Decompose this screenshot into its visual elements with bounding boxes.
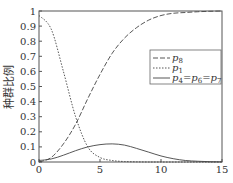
y-tick-label: 0.4 xyxy=(20,96,36,107)
legend: p8p1p4=p6=p7 xyxy=(150,50,221,85)
chart: 00.10.20.30.40.50.60.70.80.91051015种群比例 … xyxy=(0,0,233,183)
axes: 00.10.20.30.40.50.60.70.80.91051015种群比例 xyxy=(2,6,228,176)
y-tick-label: 0.8 xyxy=(20,36,36,47)
x-tick-label: 10 xyxy=(155,164,168,175)
y-tick-label: 1 xyxy=(30,6,36,17)
plot-lines xyxy=(39,11,222,162)
x-tick-label: 5 xyxy=(97,164,103,175)
y-tick-label: 0.1 xyxy=(20,141,36,152)
x-tick-label: 15 xyxy=(216,164,229,175)
x-tick-label: 0 xyxy=(36,164,42,175)
y-axis-label: 种群比例 xyxy=(2,65,16,109)
y-tick-label: 0.9 xyxy=(20,21,36,32)
y-tick-label: 0.3 xyxy=(20,111,36,122)
series-line-p8 xyxy=(39,11,222,162)
y-tick-label: 0.5 xyxy=(20,81,36,92)
series-line-p4-p6-p7 xyxy=(39,144,222,162)
y-tick-label: 0.6 xyxy=(20,66,36,77)
y-tick-label: 0.2 xyxy=(20,126,36,137)
y-tick-label: 0.7 xyxy=(20,51,36,62)
